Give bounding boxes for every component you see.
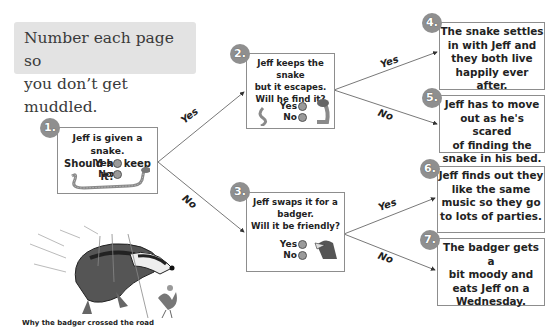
step-badge-6: 6.: [420, 159, 440, 179]
outcome-box-5: Jeff has to move out as he's scared of f…: [439, 95, 545, 153]
option-no[interactable]: No: [273, 112, 307, 123]
illustration-caption: Why the badger crossed the road: [22, 319, 154, 327]
question-line: but it escapes.: [247, 81, 334, 93]
step-badge-2: 2.: [230, 44, 250, 64]
outcome-box-4: The snake settles in with Jeff and they …: [439, 22, 545, 90]
question-line: Jeff is given a snake.: [58, 131, 157, 157]
snake-tail-icon: [255, 106, 275, 126]
badger-icon: [313, 237, 339, 261]
question-line: Jeff swaps it for a: [247, 196, 344, 208]
question-line: Will it be friendly?: [247, 220, 344, 232]
snake-icon: [70, 166, 150, 190]
radio-yes[interactable]: [298, 240, 307, 249]
option-yes[interactable]: Yes: [273, 101, 307, 112]
question-box-2: Jeff keeps the snake but it escapes. Wil…: [246, 53, 335, 129]
option-yes[interactable]: Yes: [273, 239, 307, 250]
running-badger-illustration: [20, 222, 190, 322]
step-badge-5: 5.: [422, 88, 442, 108]
step-badge-3: 3.: [230, 182, 250, 202]
tip-line-2: you don’t get muddled.: [24, 73, 196, 119]
outcome-box-7: The badger gets a bit moody and eats Jef…: [437, 238, 545, 306]
snake-head-icon: [311, 98, 333, 124]
tip-note: Number each page so you don’t get muddle…: [14, 22, 196, 74]
question-line: Jeff keeps the snake: [247, 57, 334, 81]
radio-no[interactable]: [298, 251, 307, 260]
step-badge-4: 4.: [422, 13, 442, 33]
question-box-1: Jeff is given a snake. Should he keep it…: [57, 127, 158, 194]
radio-no[interactable]: [298, 113, 307, 122]
question-box-3: Jeff swaps it for a badger. Will it be f…: [246, 192, 345, 272]
option-no[interactable]: No: [273, 250, 307, 261]
step-badge-1: 1.: [40, 118, 60, 138]
outcome-box-6: Jeff finds out they like the same music …: [437, 166, 545, 233]
step-badge-7: 7.: [420, 230, 440, 250]
question-line: badger.: [247, 208, 344, 220]
radio-yes[interactable]: [298, 102, 307, 111]
tip-line-1: Number each page so: [24, 27, 196, 73]
